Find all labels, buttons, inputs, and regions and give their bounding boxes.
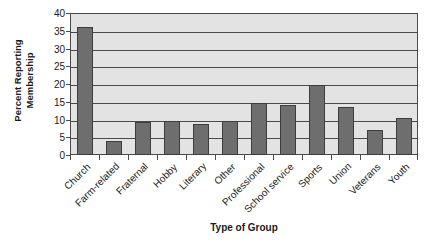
bar [280, 105, 296, 155]
bar-slot [128, 13, 157, 155]
y-axis-title-line-1: Percent Reporting [12, 39, 23, 121]
y-axis-tick-labels: 0510152025303540 [44, 0, 70, 246]
x-tick-mark [99, 155, 100, 160]
y-tick-label-0: 0 [59, 150, 65, 161]
bar [164, 121, 180, 155]
bar-chart-figure: Percent Reporting Membership 05101520253… [0, 0, 434, 246]
x-tick-mark [302, 155, 303, 160]
x-tick-mark [128, 155, 129, 160]
x-tick-label-other: Other [212, 161, 237, 186]
x-tick-mark [331, 155, 332, 160]
bar [135, 122, 151, 155]
x-tick-label-sports: Sports [296, 161, 324, 189]
x-axis-ticks [70, 155, 418, 160]
x-tick-mark [215, 155, 216, 160]
x-tick-mark [389, 155, 390, 160]
x-tick-mark [417, 155, 418, 160]
bar-slot [331, 13, 360, 155]
y-tick-label-15: 15 [54, 96, 65, 107]
bar [106, 141, 122, 155]
y-tick-label-25: 25 [54, 61, 65, 72]
y-tick-label-30: 30 [54, 43, 65, 54]
bar-slot [186, 13, 215, 155]
bar-slot [244, 13, 273, 155]
x-tick-label-youth: Youth [386, 161, 412, 187]
bar [222, 121, 238, 155]
bar-slot [302, 13, 331, 155]
y-tick-label-40: 40 [54, 8, 65, 19]
x-tick-label-literary: Literary [177, 161, 208, 192]
x-tick-mark [244, 155, 245, 160]
y-axis-title: Percent Reporting Membership [0, 0, 46, 160]
bar-slot [360, 13, 389, 155]
y-tick-label-10: 10 [54, 114, 65, 125]
x-tick-label-union: Union [327, 161, 353, 187]
bar-slot [157, 13, 186, 155]
x-axis-title: Type of Group [70, 222, 418, 233]
x-tick-mark [360, 155, 361, 160]
y-tick-label-35: 35 [54, 25, 65, 36]
y-tick-label-5: 5 [59, 132, 65, 143]
x-tick-mark [186, 155, 187, 160]
y-tick-label-20: 20 [54, 79, 65, 90]
y-axis-title-line-2: Membership [23, 39, 35, 121]
bar-slot [99, 13, 128, 155]
bar-slot [70, 13, 99, 155]
x-tick-mark [70, 155, 71, 160]
bar [193, 124, 209, 155]
bar [338, 107, 354, 155]
bar [309, 85, 325, 155]
x-tick-label-hobby: Hobby [151, 161, 179, 189]
x-tick-mark [273, 155, 274, 160]
bars-layer [70, 13, 418, 155]
x-axis-category-labels: ChurchFarm-relatedFraternalHobbyLiterary… [70, 161, 418, 221]
bar-slot [215, 13, 244, 155]
bar [367, 130, 383, 155]
bar [77, 27, 93, 155]
x-tick-label-veterans: Veterans [347, 161, 383, 197]
x-tick-mark [157, 155, 158, 160]
bar-slot [389, 13, 418, 155]
bar [396, 118, 412, 155]
bar-slot [273, 13, 302, 155]
bar [251, 103, 267, 155]
